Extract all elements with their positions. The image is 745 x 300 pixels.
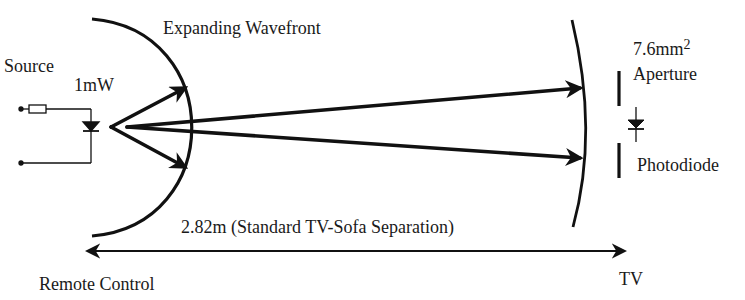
ray-lower-long (127, 127, 580, 158)
photodiode-icon (628, 120, 644, 128)
remote-control-label: Remote Control (39, 275, 155, 293)
source-label: Source (4, 57, 54, 75)
photodiode-label: Photodiode (637, 156, 719, 174)
wavefront-label: Expanding Wavefront (163, 19, 321, 37)
aperture-area-exponent: 2 (684, 37, 691, 52)
resistor (29, 105, 46, 113)
tv-label: TV (619, 270, 643, 288)
source-rays (111, 88, 580, 167)
aperture-label: Aperture (633, 65, 697, 83)
distance-label: 2.82m (Standard TV-Sofa Separation) (181, 218, 454, 236)
aperture-area-label: 7.6mm2 (633, 40, 691, 58)
source-circuit (19, 105, 99, 165)
led-icon (83, 122, 99, 131)
ray-upper-long (127, 88, 580, 127)
aperture-area-value: 7.6mm (633, 39, 684, 59)
wavefront-arc-receiver (572, 20, 586, 227)
power-label: 1mW (74, 76, 114, 94)
ray-upper-short (111, 88, 185, 127)
terminal-bottom (19, 161, 23, 165)
ray-lower-short (111, 127, 185, 167)
